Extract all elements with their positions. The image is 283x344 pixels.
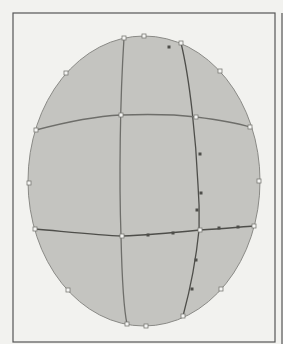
mesh-ellipse[interactable] — [28, 36, 260, 326]
anchor-point[interactable] — [119, 113, 123, 117]
direction-handle[interactable] — [237, 226, 240, 229]
anchor-point[interactable] — [33, 227, 37, 231]
direction-handle[interactable] — [218, 227, 221, 230]
anchor-point[interactable] — [179, 41, 183, 45]
anchor-point[interactable] — [252, 224, 256, 228]
gradient-mesh-diagram — [0, 0, 283, 344]
direction-handle[interactable] — [199, 153, 202, 156]
direction-handle[interactable] — [172, 232, 175, 235]
anchor-point[interactable] — [218, 69, 222, 73]
anchor-point[interactable] — [120, 234, 124, 238]
anchor-point[interactable] — [27, 181, 31, 185]
direction-handle[interactable] — [195, 259, 198, 262]
anchor-point[interactable] — [198, 228, 202, 232]
direction-handle[interactable] — [147, 234, 150, 237]
anchor-point[interactable] — [122, 36, 126, 40]
anchor-point[interactable] — [34, 128, 38, 132]
anchor-point[interactable] — [181, 314, 185, 318]
anchor-point[interactable] — [142, 34, 146, 38]
anchor-point[interactable] — [257, 179, 261, 183]
direction-handle[interactable] — [196, 209, 199, 212]
direction-handle[interactable] — [168, 46, 171, 49]
anchor-point[interactable] — [144, 324, 148, 328]
anchor-point[interactable] — [248, 125, 252, 129]
anchor-point[interactable] — [66, 288, 70, 292]
diagram-canvas — [0, 0, 283, 344]
anchor-point[interactable] — [219, 287, 223, 291]
anchor-point[interactable] — [194, 115, 198, 119]
direction-handle[interactable] — [200, 192, 203, 195]
anchor-point[interactable] — [64, 71, 68, 75]
anchor-point[interactable] — [125, 322, 129, 326]
direction-handle[interactable] — [191, 288, 194, 291]
